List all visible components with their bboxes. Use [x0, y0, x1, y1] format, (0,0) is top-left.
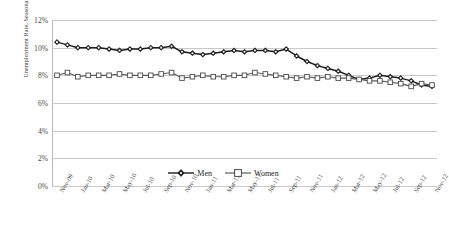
data-point-center [212, 52, 214, 54]
y-tick-label: 10% [34, 43, 48, 52]
data-point-center [264, 49, 266, 51]
data-point-center [56, 41, 58, 43]
data-point-center [223, 51, 225, 53]
data-point-center [243, 51, 245, 53]
data-point-marker [388, 80, 393, 85]
data-point-marker [201, 73, 206, 78]
data-point-marker [430, 83, 435, 88]
series-canvas [52, 20, 437, 186]
y-tick-label: 0% [38, 182, 48, 191]
data-point-center [233, 49, 235, 51]
data-point-marker [367, 79, 372, 84]
data-point-marker [148, 73, 153, 78]
legend-marker-square-icon [225, 168, 251, 178]
data-point-marker [211, 74, 216, 79]
data-point-marker [107, 73, 112, 78]
data-point-center [254, 49, 256, 51]
data-point-marker [117, 72, 122, 77]
data-point-center [337, 70, 339, 72]
data-point-center [202, 54, 204, 56]
data-point-marker [232, 73, 237, 78]
legend-label-women: Women [254, 169, 279, 178]
data-point-marker [419, 81, 424, 86]
data-point-center [191, 52, 193, 54]
y-tick-label: 6% [38, 99, 48, 108]
data-point-marker [315, 76, 320, 81]
data-point-center [77, 47, 79, 49]
data-point-marker [326, 74, 331, 79]
x-axis-tick-labels: Nov-09Jan-10Mar-10May-10Jul-10Sep-10Nov-… [52, 188, 437, 245]
data-point-marker [253, 70, 258, 75]
y-tick-label: 8% [38, 71, 48, 80]
legend-item-men[interactable]: Men [168, 168, 212, 178]
legend-label-men: Men [197, 169, 212, 178]
data-point-marker [159, 72, 164, 77]
data-point-marker [294, 76, 299, 81]
data-point-center [389, 76, 391, 78]
data-point-center [66, 44, 68, 46]
data-point-marker [284, 74, 289, 79]
data-point-marker [221, 74, 226, 79]
data-point-marker [242, 73, 247, 78]
data-point-center [285, 48, 287, 50]
data-point-marker [65, 70, 70, 75]
data-point-marker [138, 73, 143, 78]
data-point-marker [346, 76, 351, 81]
data-point-marker [357, 77, 362, 82]
data-point-marker [336, 76, 341, 81]
data-point-center [181, 51, 183, 53]
data-point-center [160, 47, 162, 49]
data-point-center [400, 77, 402, 79]
data-point-center [296, 55, 298, 57]
plot-area [52, 20, 437, 186]
data-point-center [150, 47, 152, 49]
data-point-marker [55, 73, 60, 78]
data-point-center [118, 49, 120, 51]
data-point-marker [128, 73, 133, 78]
data-point-center [108, 48, 110, 50]
data-point-marker [76, 74, 81, 79]
y-tick-label: 12% [34, 16, 48, 25]
data-point-marker [273, 73, 278, 78]
data-point-center [171, 45, 173, 47]
data-point-marker [190, 74, 195, 79]
data-point-center [327, 67, 329, 69]
chart-legend: Men Women [0, 168, 447, 178]
data-point-marker [398, 81, 403, 86]
data-point-marker [305, 74, 310, 79]
data-point-marker [96, 73, 101, 78]
series-women [55, 70, 435, 88]
data-point-center [316, 65, 318, 67]
data-point-center [139, 48, 141, 50]
legend-item-women[interactable]: Women [225, 168, 279, 178]
legend-marker-diamond-icon [168, 168, 194, 178]
data-point-center [275, 51, 277, 53]
data-point-marker [169, 70, 174, 75]
data-point-marker [263, 72, 268, 77]
y-tick-label: 2% [38, 154, 48, 163]
data-point-center [306, 60, 308, 62]
data-point-marker [180, 76, 185, 81]
data-point-center [410, 80, 412, 82]
data-point-center [87, 47, 89, 49]
y-axis-tick-labels: 0%2%4%6%8%10%12% [18, 0, 48, 245]
data-point-marker [378, 79, 383, 84]
data-point-center [129, 48, 131, 50]
data-point-marker [409, 84, 414, 89]
y-tick-label: 4% [38, 126, 48, 135]
data-point-center [98, 47, 100, 49]
data-point-center [379, 74, 381, 76]
data-point-marker [86, 73, 91, 78]
